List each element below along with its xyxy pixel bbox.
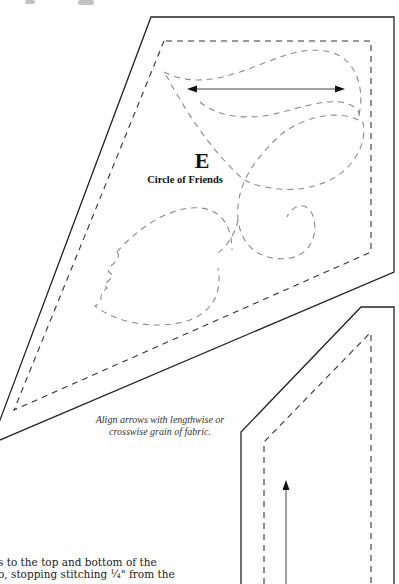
strip-grain-arrow xyxy=(283,480,290,584)
instruction-text: s to the top and bottom of the o, stoppi… xyxy=(0,556,248,580)
instruction-line-2: o, stopping stitching ¼" from the xyxy=(0,568,248,580)
pattern-page: E Circle of Friends Align arrows with le… xyxy=(0,0,399,584)
grain-note: Align arrows with lengthwise or crosswis… xyxy=(60,414,260,438)
instruction-line-1: s to the top and bottom of the xyxy=(0,556,248,568)
piece-e-grain-arrow xyxy=(187,86,345,93)
piece-letter: E xyxy=(162,150,242,172)
grain-note-line-1: Align arrows with lengthwise or xyxy=(60,414,260,426)
piece-name: Circle of Friends xyxy=(120,174,250,185)
quilting-motif xyxy=(95,50,364,325)
grain-note-line-2: crosswise grain of fabric. xyxy=(60,426,260,438)
pattern-drawing xyxy=(0,0,399,584)
piece-e-seam-line xyxy=(14,41,371,410)
strip-seam-line xyxy=(264,333,371,584)
